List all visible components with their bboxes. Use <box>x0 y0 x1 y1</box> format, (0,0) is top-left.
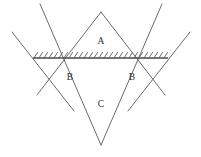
diagram-canvas: A B B C <box>0 0 201 157</box>
region-label-c: C <box>98 99 105 109</box>
slip-line-field-figure: A B B C <box>0 0 201 157</box>
ray-upper-left-long <box>12 32 74 111</box>
lattice-lines-down-left <box>37 4 190 145</box>
lattice-line-dr-3 <box>101 12 165 95</box>
region-label-b-right: B <box>129 72 136 82</box>
region-label-b-left: B <box>67 72 74 82</box>
region-label-a: A <box>97 36 104 46</box>
ray-upper-right-long <box>128 32 190 111</box>
ground-line-group <box>33 53 168 59</box>
ground-hatching <box>34 53 168 59</box>
lattice-lines-down-right <box>12 4 165 145</box>
